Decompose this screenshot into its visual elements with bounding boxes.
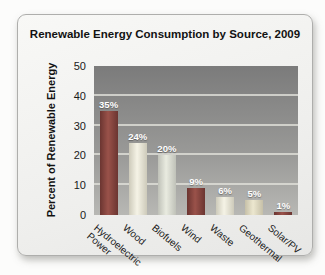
bar [245,200,263,215]
x-tick-label: Biofuels [150,222,184,253]
bar-column: 35% [94,66,123,215]
bar-value-label: 24% [128,131,147,142]
plot-area: 35%24%20%9%6%5%1% [94,66,298,215]
x-axis-labels: Hydroelectric PowerWoodBiofuelsWindWaste… [94,216,298,269]
y-axis-ticks: 01020304050 [56,66,86,215]
bar-column: 9% [181,66,210,215]
bar [274,212,292,215]
bar-value-label: 1% [277,200,291,211]
y-tick-label: 40 [56,89,86,103]
bar [129,143,147,215]
y-tick-label: 50 [56,59,86,73]
y-tick-label: 20 [56,148,86,162]
x-tick-label: Wind [179,222,204,245]
chart-title: Renewable Energy Consumption by Source, … [18,28,312,40]
bar [187,188,205,215]
bar-value-label: 6% [218,185,232,196]
y-tick-label: 30 [56,119,86,133]
bars: 35%24%20%9%6%5%1% [94,66,298,215]
bar [158,155,176,215]
bar-value-label: 9% [189,176,203,187]
bar-column: 1% [269,66,298,215]
bar-column: 6% [211,66,240,215]
x-tick-label: Waste [208,222,236,248]
bar-value-label: 35% [99,99,118,110]
y-tick-label: 10 [56,178,86,192]
y-tick-label: 0 [56,208,86,222]
bar-column: 24% [123,66,152,215]
bar-column: 20% [152,66,181,215]
bar-value-label: 20% [157,143,176,154]
chart-card: Renewable Energy Consumption by Source, … [17,14,313,256]
bar [100,111,118,215]
bar-value-label: 5% [247,188,261,199]
bar-column: 5% [240,66,269,215]
bar [216,197,234,215]
